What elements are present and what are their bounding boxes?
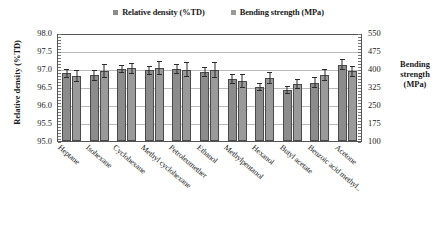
- y-tick-label: 475: [368, 48, 408, 56]
- y-tick-label: 95.0: [14, 138, 52, 146]
- bar-group: [168, 34, 196, 141]
- bar-rect: [145, 70, 154, 141]
- y-tick-label: 550: [368, 30, 408, 38]
- bar-rect: [72, 76, 81, 141]
- bar-strength: [100, 34, 109, 141]
- legend-swatch-bending-strength: [231, 10, 236, 15]
- x-tick-label: Acetone: [333, 143, 358, 166]
- error-bar: [121, 65, 122, 74]
- bar-group: [306, 34, 334, 141]
- bar-density: [283, 34, 292, 141]
- bar-rect: [338, 65, 347, 141]
- bar-rect: [238, 81, 247, 141]
- bar-density: [172, 34, 181, 141]
- legend-label-relative-density: Relative density (%TD): [122, 8, 204, 17]
- bar-rect: [293, 84, 302, 141]
- bar-strength: [182, 34, 191, 141]
- bar-rect: [127, 68, 136, 141]
- bar-rect: [348, 71, 357, 141]
- x-tick-label: Heptane: [56, 143, 81, 166]
- plot-area: [57, 34, 362, 142]
- error-bar: [342, 59, 343, 71]
- error-bar: [314, 77, 315, 89]
- bar-strength: [238, 34, 247, 141]
- bar-density: [200, 34, 209, 141]
- bar-rect: [182, 70, 191, 141]
- error-bar: [269, 72, 270, 84]
- error-bar: [204, 67, 205, 76]
- error-bar: [287, 86, 288, 95]
- bar-group: [333, 34, 361, 141]
- bar-strength: [155, 34, 164, 141]
- y-tick-label: 100: [368, 138, 408, 146]
- legend-item-bending-strength: Bending strength (MPa): [231, 8, 324, 17]
- x-axis-ticklabels: HeptaneIsohexaneCyclohexaneMethyl cycloh…: [57, 143, 362, 203]
- bar-rect: [310, 83, 319, 141]
- bar-density: [255, 34, 264, 141]
- y-tick-label: 96.0: [14, 102, 52, 110]
- bar-group: [86, 34, 114, 141]
- bar-density: [310, 34, 319, 141]
- bar-strength: [265, 34, 274, 141]
- x-tick-label: Ethanol: [195, 143, 219, 165]
- bar-density: [145, 34, 154, 141]
- error-bar: [76, 70, 77, 82]
- error-bar: [159, 61, 160, 74]
- bar-strength: [210, 34, 219, 141]
- bar-rect: [155, 68, 164, 141]
- bar-rect: [228, 79, 237, 141]
- error-bar: [352, 66, 353, 77]
- y-tick-label: 175: [368, 120, 408, 128]
- y-tick-label: 325: [368, 84, 408, 92]
- error-bar: [131, 63, 132, 75]
- y-tick-label: 95.5: [14, 120, 52, 128]
- bar-strength: [127, 34, 136, 141]
- chart-legend: Relative density (%TD) Bending strength …: [0, 5, 437, 19]
- bar-rect: [210, 70, 219, 141]
- y-tick-label: 97.0: [14, 66, 52, 74]
- bar-rect: [200, 72, 209, 141]
- y-tick-label: 97.5: [14, 48, 52, 56]
- bar-rect: [100, 71, 109, 141]
- bar-rect: [283, 90, 292, 141]
- legend-item-relative-density: Relative density (%TD): [113, 8, 204, 17]
- legend-label-bending-strength: Bending strength (MPa): [240, 8, 324, 17]
- error-bar: [297, 79, 298, 90]
- bar-group: [196, 34, 224, 141]
- bar-group: [223, 34, 251, 141]
- x-tick-label: Isohexane: [84, 143, 114, 170]
- x-tick-label: Hexanol: [250, 143, 276, 167]
- bar-rect: [90, 75, 99, 141]
- error-bar: [94, 70, 95, 80]
- bar-group: [251, 34, 279, 141]
- bar-group: [141, 34, 169, 141]
- error-bar: [232, 74, 233, 84]
- legend-swatch-relative-density: [113, 10, 118, 15]
- error-bar: [324, 69, 325, 81]
- y-tick-label: 96.5: [14, 84, 52, 92]
- error-bar: [176, 64, 177, 74]
- bar-rect: [255, 87, 264, 141]
- bar-strength: [72, 34, 81, 141]
- bar-density: [90, 34, 99, 141]
- y-tick-label: 250: [368, 102, 408, 110]
- error-bar: [149, 66, 150, 75]
- bar-strength: [293, 34, 302, 141]
- bar-strength: [348, 34, 357, 141]
- bar-rect: [117, 69, 126, 141]
- error-bar: [259, 83, 260, 92]
- bar-group: [58, 34, 86, 141]
- bar-density: [338, 34, 347, 141]
- bar-rect: [172, 69, 181, 141]
- bar-rect: [265, 78, 274, 141]
- y-tick-label: 400: [368, 66, 408, 74]
- y-tick-label: 98.0: [14, 30, 52, 38]
- error-bar: [66, 69, 67, 78]
- error-bar: [214, 62, 215, 78]
- error-bar: [242, 74, 243, 88]
- error-bar: [186, 62, 187, 77]
- bar-strength: [320, 34, 329, 141]
- error-bar: [104, 64, 105, 78]
- bar-groups: [58, 34, 361, 141]
- bar-density: [117, 34, 126, 141]
